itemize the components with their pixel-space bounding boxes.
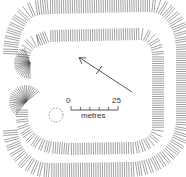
north-arrow-icon: [79, 58, 132, 93]
scale-unit-label: metres: [81, 112, 105, 120]
scale-end-label: 25: [112, 97, 121, 105]
pit-circle: [49, 108, 63, 122]
scale-start-label: 0: [66, 97, 70, 105]
earthwork-plan: 0 25 metres: [0, 0, 186, 177]
scale-bar: [71, 106, 118, 110]
outer-bank: [3, 0, 186, 177]
hachure-drawing: [0, 0, 186, 177]
